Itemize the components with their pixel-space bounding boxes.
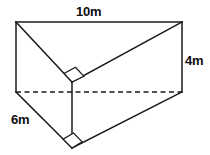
length-dimension-label: 10m <box>76 5 101 19</box>
prism-drawing <box>0 0 210 155</box>
height-dimension-label: 4m <box>185 54 203 68</box>
triangular-prism-figure: 10m 4m 6m <box>0 0 210 155</box>
width-dimension-label: 6m <box>11 113 29 127</box>
